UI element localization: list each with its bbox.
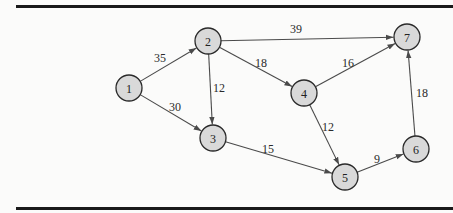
edge-arrow bbox=[310, 105, 339, 165]
node-label: 7 bbox=[404, 31, 410, 45]
edge-3-to-5: 15 bbox=[225, 142, 332, 173]
edge-weight-label: 15 bbox=[262, 142, 274, 156]
node-2: 2 bbox=[195, 28, 221, 54]
edge-weight-label: 9 bbox=[374, 152, 380, 166]
edges-layer: 3530121839151612918 bbox=[140, 22, 428, 173]
edge-arrow bbox=[408, 50, 415, 136]
node-label: 4 bbox=[301, 87, 307, 101]
edge-6-to-7: 18 bbox=[408, 50, 428, 136]
node-label: 6 bbox=[413, 143, 419, 157]
edge-weight-label: 30 bbox=[169, 100, 181, 114]
edge-1-to-3: 30 bbox=[140, 95, 201, 131]
edge-arrow bbox=[357, 154, 403, 172]
edge-4-to-7: 16 bbox=[315, 43, 395, 86]
node-4: 4 bbox=[291, 80, 317, 106]
figure-frame: 3530121839151612918 1234567 bbox=[0, 0, 453, 213]
node-3: 3 bbox=[200, 125, 226, 151]
edge-weight-label: 16 bbox=[342, 56, 354, 70]
edge-2-to-3: 12 bbox=[209, 54, 225, 125]
node-5: 5 bbox=[332, 164, 358, 190]
edge-4-to-5: 12 bbox=[310, 105, 339, 165]
edge-arrow bbox=[140, 48, 196, 81]
edge-weight-label: 35 bbox=[154, 51, 166, 65]
node-6: 6 bbox=[403, 136, 429, 162]
edge-weight-label: 18 bbox=[416, 86, 428, 100]
node-label: 3 bbox=[210, 132, 216, 146]
node-label: 1 bbox=[126, 82, 132, 96]
node-label: 5 bbox=[342, 171, 348, 185]
edge-weight-label: 18 bbox=[255, 56, 267, 70]
edge-arrow bbox=[209, 54, 213, 125]
network-graph: 3530121839151612918 1234567 bbox=[0, 0, 453, 213]
node-label: 2 bbox=[205, 35, 211, 49]
edge-2-to-4: 18 bbox=[219, 47, 292, 86]
edge-arrow bbox=[315, 43, 395, 86]
edge-5-to-6: 9 bbox=[357, 152, 403, 172]
edge-weight-label: 12 bbox=[322, 120, 334, 134]
node-1: 1 bbox=[116, 75, 142, 101]
edge-arrow bbox=[221, 37, 394, 40]
edge-weight-label: 39 bbox=[290, 22, 302, 36]
edge-2-to-7: 39 bbox=[221, 22, 394, 41]
edge-arrow bbox=[225, 142, 332, 173]
nodes-layer: 1234567 bbox=[116, 24, 429, 190]
edge-1-to-2: 35 bbox=[140, 48, 196, 81]
node-7: 7 bbox=[394, 24, 420, 50]
edge-weight-label: 12 bbox=[213, 81, 225, 95]
